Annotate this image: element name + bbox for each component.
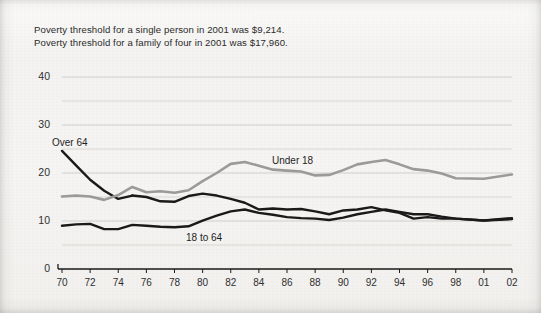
x-axis-tick-label: 72 bbox=[80, 277, 100, 288]
y-axis-tick-label: 0 bbox=[24, 262, 50, 274]
x-axis-tick-label: 02 bbox=[502, 277, 522, 288]
x-axis-tick-label: 96 bbox=[418, 277, 438, 288]
y-axis-tick-label: 10 bbox=[24, 214, 50, 226]
series-inline-label: Under 18 bbox=[272, 155, 313, 166]
series-inline-label: 18 to 64 bbox=[186, 232, 222, 243]
series-inline-label: Over 64 bbox=[52, 137, 88, 148]
x-axis-tick-label: 88 bbox=[305, 277, 325, 288]
x-axis-tick-label: 84 bbox=[249, 277, 269, 288]
y-axis-tick-label: 20 bbox=[24, 166, 50, 178]
poverty-rate-line-chart bbox=[0, 0, 541, 313]
x-axis-tick-label: 70 bbox=[52, 277, 72, 288]
x-axis-tick-label: 01 bbox=[474, 277, 494, 288]
x-axis-tick-label: 80 bbox=[193, 277, 213, 288]
chart-page: Poverty threshold for a single person in… bbox=[0, 0, 541, 313]
x-axis-tick-label: 82 bbox=[221, 277, 241, 288]
x-axis-tick-label: 86 bbox=[277, 277, 297, 288]
x-axis-tick-label: 98 bbox=[446, 277, 466, 288]
x-axis-tick-label: 94 bbox=[390, 277, 410, 288]
x-axis-tick-label: 78 bbox=[165, 277, 185, 288]
y-axis-tick-label: 30 bbox=[24, 118, 50, 130]
x-axis-tick-label: 90 bbox=[333, 277, 353, 288]
series-line bbox=[62, 160, 512, 200]
x-axis-tick-label: 76 bbox=[136, 277, 156, 288]
x-axis-tick-label: 92 bbox=[361, 277, 381, 288]
series-line bbox=[132, 194, 512, 221]
x-axis-tick-label: 74 bbox=[108, 277, 128, 288]
x-axis-line bbox=[58, 264, 512, 269]
y-axis-tick-label: 40 bbox=[24, 70, 50, 82]
